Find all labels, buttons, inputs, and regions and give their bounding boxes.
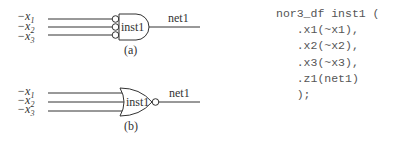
verilog-code-block: nor3_df inst1 ( .x1(~x1), .x2(~x2), .x3(… [276,6,380,103]
output-net-label-a: net1 [168,11,189,25]
code-line: .z1(net1) [276,71,380,87]
code-line: ); [276,87,380,103]
gate-instance-label-b: inst1 [126,95,149,109]
inversion-bubble-icon [112,24,119,31]
figure-a: −x1 −x2 −x3 inst1 net1 (a) [17,9,200,57]
inversion-bubble-icon [152,99,159,106]
code-line: .x1(~x1), [276,22,380,38]
logic-diagram: −x1 −x2 −x3 inst1 net1 (a) [0,0,401,141]
caption-a: (a) [124,43,137,57]
output-net-label-b: net1 [169,86,190,100]
code-line: .x2(~x2), [276,38,380,54]
caption-b: (b) [124,119,138,133]
code-line: nor3_df inst1 ( [276,6,380,22]
code-line: .x3(~x3), [276,55,380,71]
inversion-bubble-icon [112,16,119,23]
gate-instance-label-a: inst1 [121,20,144,34]
figure-b: −x1 −x2 −x3 inst1 net1 (b) [17,84,200,133]
inversion-bubble-icon [112,32,119,39]
